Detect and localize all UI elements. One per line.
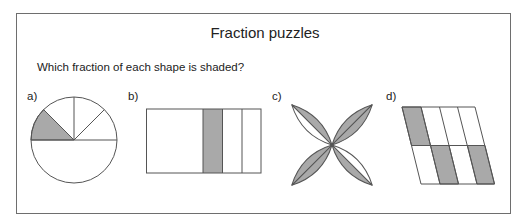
figure-d-parallelogram (402, 107, 495, 184)
figures-canvas (0, 0, 530, 224)
shaded-sector (31, 110, 74, 140)
figure-c-flower (286, 99, 377, 190)
figure-a-circle (31, 97, 117, 183)
figure-b-rectangle (147, 109, 262, 173)
shaded-strip (203, 109, 223, 173)
